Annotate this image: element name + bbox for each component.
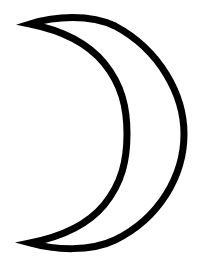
canvas (0, 0, 198, 273)
crescent-moon-icon (0, 0, 198, 273)
crescent-outline (30, 18, 184, 249)
